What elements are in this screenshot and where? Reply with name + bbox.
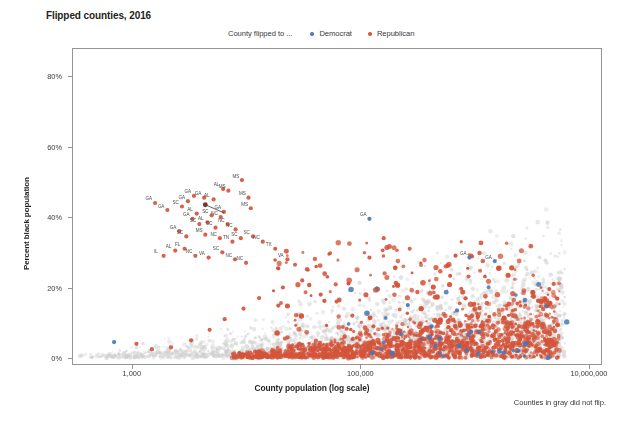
legend-label-republican: Republican [377,29,415,38]
x-tick-mark [589,365,590,369]
republican-dot-icon [368,32,372,36]
y-tick-label: 40% [28,213,62,222]
page-title: Flipped counties, 2016 [46,10,151,21]
y-tick-mark [68,147,72,148]
chart-figure: Flipped counties, 2016 County flipped to… [0,0,624,426]
x-tick-label: 1,000 [97,369,167,378]
y-tick-mark [68,288,72,289]
plot-area [72,48,602,365]
y-axis-title: Percent black population [22,177,31,270]
y-tick-mark [68,358,72,359]
y-tick-mark [68,76,72,77]
legend-caption: County flipped to ... [228,29,292,38]
x-axis-title: County population (log scale) [0,383,624,393]
chart-footnote: Counties in gray did not flip. [514,398,606,407]
x-tick-mark [360,365,361,369]
x-tick-label: 100,000 [325,369,395,378]
x-tick-mark [132,365,133,369]
y-tick-label: 20% [28,284,62,293]
y-tick-label: 0% [28,354,62,363]
chart-legend: County flipped to ... Democrat Republica… [228,29,430,38]
clipped-bottom-text [16,417,266,422]
democrat-dot-icon [310,32,314,36]
legend-item-democrat[interactable]: Democrat [310,29,352,38]
legend-label-democrat: Democrat [319,29,352,38]
legend-item-republican[interactable]: Republican [368,29,415,38]
y-tick-label: 60% [28,143,62,152]
x-tick-label: 10,000,000 [554,369,624,378]
y-tick-label: 80% [28,72,62,81]
y-tick-mark [68,217,72,218]
